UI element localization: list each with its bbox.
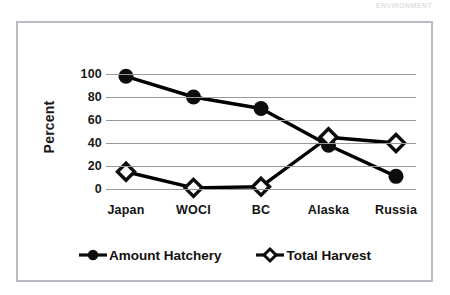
gridline bbox=[106, 143, 416, 144]
legend-marker-diamond-icon bbox=[255, 245, 285, 265]
x-axis-tick-label: WOCI bbox=[176, 203, 211, 217]
legend-marker-circle-icon bbox=[78, 245, 108, 265]
data-point-marker-circle bbox=[389, 169, 404, 184]
y-axis-tick-label: 80 bbox=[56, 90, 102, 104]
gridline bbox=[106, 189, 416, 190]
legend-item[interactable]: Total Harvest bbox=[255, 245, 371, 265]
series-line bbox=[126, 76, 396, 176]
x-axis-tick-label: Russia bbox=[375, 203, 417, 217]
legend-item-label: Amount Hatchery bbox=[109, 248, 222, 263]
chart-screenshot: ENVIRONMENT Percent 020406080100 JapanWO… bbox=[0, 0, 450, 295]
y-axis-tick-label: 60 bbox=[56, 113, 102, 127]
gridline bbox=[106, 74, 416, 75]
y-axis-title: Percent bbox=[41, 72, 57, 182]
running-header-text: ENVIRONMENT bbox=[312, 1, 432, 10]
y-axis-tick-label: 20 bbox=[56, 159, 102, 173]
gridline bbox=[106, 166, 416, 167]
legend-item[interactable]: Amount Hatchery bbox=[78, 245, 222, 265]
data-point-marker-diamond bbox=[185, 179, 202, 196]
legend-item-label: Total Harvest bbox=[286, 248, 371, 263]
x-axis-tick-label: Alaska bbox=[308, 203, 350, 217]
gridline bbox=[106, 120, 416, 121]
data-point-marker-circle bbox=[119, 69, 134, 84]
y-axis-tick-label: 100 bbox=[56, 67, 102, 81]
y-axis-tick-label: 40 bbox=[56, 136, 102, 150]
y-axis-tick-label: 0 bbox=[56, 182, 102, 196]
x-axis-tick-label: BC bbox=[252, 203, 270, 217]
chart-legend: Amount HatcheryTotal Harvest bbox=[18, 245, 431, 265]
x-axis-tick-label: Japan bbox=[107, 203, 144, 217]
gridline bbox=[106, 97, 416, 98]
data-point-marker-circle bbox=[254, 101, 269, 116]
chart-frame: Percent 020406080100 JapanWOCIBCAlaskaRu… bbox=[16, 21, 433, 282]
